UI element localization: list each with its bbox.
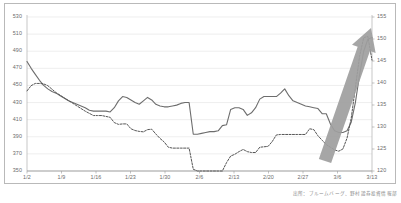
y-axis-left-tick-label: 530 [6,14,22,19]
x-axis-tick-label: 2/27 [292,175,314,180]
y-axis-left-tick-label: 350 [6,168,22,173]
y-axis-right-tick-label: 125 [377,146,393,151]
chart-source-caption: 出所：ブルームバーグ、野村證券投資情報部 [293,190,397,196]
x-axis-tick-label: 1/9 [51,175,73,180]
y-axis-left-tick-label: 490 [6,48,22,53]
x-axis-tick-label: 1/23 [120,175,142,180]
y-axis-left-tick-label: 470 [6,65,22,70]
x-axis-tick-label: 2/6 [189,175,211,180]
chart-annotations [319,28,376,163]
chart-screenshot: 530510490470450430410390370350 155150145… [0,0,401,203]
up-trend-arrow-icon [319,28,376,163]
x-axis-tick-label: 1/30 [154,175,176,180]
x-axis-tick-label: 1/2 [16,175,38,180]
y-axis-left-tick-label: 370 [6,151,22,156]
y-axis-right-tick-label: 155 [377,14,393,19]
gridlines [27,17,372,171]
series-line-dashed-series [27,36,372,171]
x-axis-tick-label: 3/6 [327,175,349,180]
data-series [27,36,372,171]
y-axis-right-tick-label: 140 [377,80,393,85]
y-axis-right-tick-label: 120 [377,168,393,173]
x-axis-tick-label: 2/20 [258,175,280,180]
axis-lines [27,15,372,171]
y-axis-right-tick-label: 135 [377,102,393,107]
y-axis-right-tick-label: 150 [377,36,393,41]
y-axis-left-tick-label: 510 [6,31,22,36]
y-axis-left-tick-label: 410 [6,117,22,122]
y-axis-left-tick-label: 450 [6,82,22,87]
y-axis-right-tick-label: 130 [377,124,393,129]
y-axis-left-tick-label: 390 [6,134,22,139]
x-axis-tick-label: 2/13 [223,175,245,180]
y-axis-right-tick-label: 145 [377,58,393,63]
chart-plot-area [0,0,401,203]
x-axis-tick-label: 3/13 [361,175,383,180]
x-axis-tick-label: 1/16 [85,175,107,180]
y-axis-left-tick-label: 430 [6,100,22,105]
